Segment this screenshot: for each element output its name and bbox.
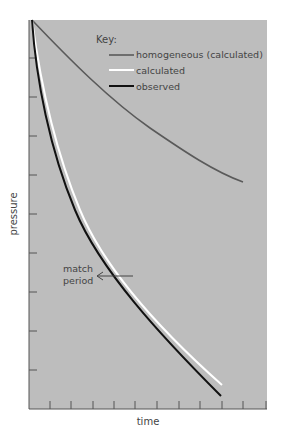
legend-label-observed: observed	[136, 81, 180, 92]
chart: Key: homogeneous (calculated) calculated…	[0, 0, 283, 437]
match-label-line1: match	[63, 263, 93, 274]
legend-title: Key:	[96, 34, 117, 45]
legend-label-homogeneous: homogeneous (calculated)	[136, 49, 263, 60]
legend-label-calculated: calculated	[136, 65, 185, 76]
x-axis-label: time	[137, 416, 160, 427]
y-axis-label: pressure	[8, 192, 19, 235]
plot-area	[29, 20, 267, 409]
match-label-line2: period	[63, 275, 93, 286]
